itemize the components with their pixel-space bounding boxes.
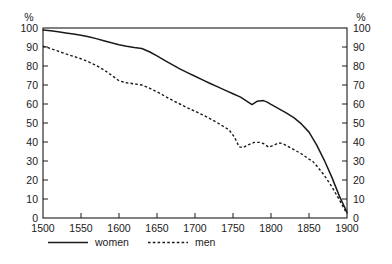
legend-label-women: women [94, 236, 129, 248]
y-tick-label-left: 80 [26, 60, 38, 72]
y-tick-label-left: 70 [26, 79, 38, 91]
y-tick-label-right: 80 [353, 60, 365, 72]
x-tick-label: 1750 [221, 222, 245, 234]
y-tick-label-right: 40 [353, 136, 365, 148]
x-tick-label: 1600 [107, 222, 131, 234]
series-line-women [43, 30, 347, 212]
legend-label-men: men [195, 236, 216, 248]
y-axis-ticks-right: 0102030405060708090100 [342, 22, 371, 224]
y-tick-label-right: 100 [353, 22, 371, 34]
line-chart: % % 0102030405060708090100 0102030405060… [0, 0, 392, 264]
chart-legend: womenmen [48, 236, 216, 248]
y-tick-label-right: 30 [353, 155, 365, 167]
y-tick-label-right: 70 [353, 79, 365, 91]
y-tick-label-right: 20 [353, 174, 365, 186]
x-tick-label: 1850 [297, 222, 321, 234]
x-tick-label: 1800 [259, 222, 283, 234]
x-tick-label: 1700 [183, 222, 207, 234]
y-tick-label-left: 30 [26, 155, 38, 167]
y-tick-label-left: 60 [26, 98, 38, 110]
x-tick-label: 1500 [31, 222, 55, 234]
y-tick-label-left: 100 [20, 22, 38, 34]
y-axis-ticks-left: 0102030405060708090100 [20, 22, 48, 224]
y-tick-label-right: 50 [353, 117, 365, 129]
y-tick-label-left: 50 [26, 117, 38, 129]
x-tick-label: 1650 [145, 222, 169, 234]
y-tick-label-left: 90 [26, 41, 38, 53]
series-line-men [43, 46, 347, 214]
y-tick-label-right: 60 [353, 98, 365, 110]
y-tick-label-right: 10 [353, 193, 365, 205]
x-tick-label: 1550 [69, 222, 93, 234]
y-tick-label-right: 90 [353, 41, 365, 53]
chart-canvas: % % 0102030405060708090100 0102030405060… [0, 0, 392, 264]
y-tick-label-left: 40 [26, 136, 38, 148]
y-tick-label-left: 20 [26, 174, 38, 186]
x-tick-label: 1900 [335, 222, 359, 234]
x-axis-ticks: 150015501600165017001750180018501900 [31, 213, 359, 234]
y-tick-label-left: 10 [26, 193, 38, 205]
